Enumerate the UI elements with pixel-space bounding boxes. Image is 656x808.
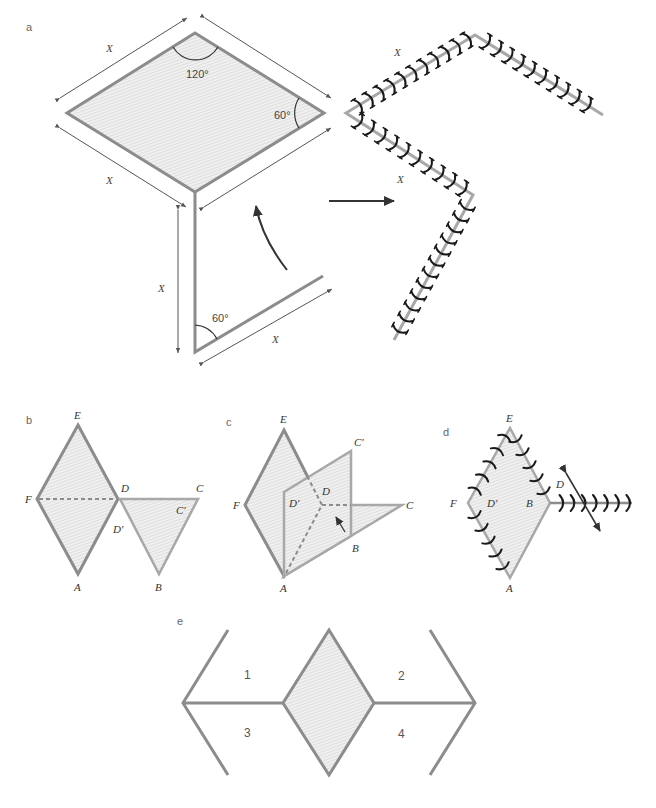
panel-d: d E D F D' B A [443,412,632,594]
panel-c: c E C' D F D' C B A [226,413,414,594]
vertex-f-c: F [232,499,240,511]
stitch-tick [441,165,445,168]
angle-label-60-strip: 60° [212,312,229,324]
stitch-tick [395,135,399,138]
stitch-tick [406,143,410,146]
dim-label-bottom-left: X [105,174,114,186]
stitch-tick [555,75,559,78]
stitch-tick [381,99,385,102]
stitch-tick [473,207,475,211]
panel-e-label: e [177,615,183,627]
stitch-tick [510,47,514,50]
vertex-cprime-c: C' [354,436,364,448]
vertex-e-b: E [73,409,81,421]
stitch-tick [447,59,451,62]
panel-a-label: a [26,21,33,33]
triangle-dcb [120,499,198,574]
stitch-tick [430,158,434,161]
stitch-tick [589,96,593,99]
vertex-a-d: A [505,582,513,594]
stitch-tick [464,180,468,183]
stitch-tick [403,86,407,89]
panel-b-label: b [26,414,32,426]
stitch-tick [566,82,570,85]
stitch-marks [351,32,593,334]
dim-label-stitch-bottom: X [396,173,405,185]
vertex-b-b: B [155,581,162,593]
dim-label-vertical: X [157,282,166,294]
vertex-dprime-d: D' [486,497,498,509]
stitched-strip: X X [346,32,603,340]
region-label-1: 1 [244,668,251,682]
stitch-tick [453,173,457,176]
stitch-tick [455,241,457,245]
stitch-tick [424,297,426,301]
stitch-tick [521,54,525,57]
dim-arrow-diagonal [204,289,332,362]
stitch-tick [392,92,396,95]
stitch-tick [469,46,473,49]
panel-c-label: c [226,416,232,428]
region-label-4: 4 [398,727,405,741]
region-label-2: 2 [398,669,405,683]
rhombus-folding-figure: a 120° 60° X X 60° X X X X [0,0,656,808]
vertex-d-b: D [120,482,129,494]
stitch-tick [467,218,469,222]
vertex-dprime-b: D' [112,523,124,535]
region-label-3: 3 [244,726,251,740]
rhombus-d [468,428,550,578]
vertex-e-d: E [505,412,513,424]
stitch-tick [430,285,432,289]
vertex-d-c: D [321,485,330,497]
stitch-tick [442,263,444,267]
stitch-tick [499,40,503,43]
vertex-f-b: F [24,493,32,505]
panel-b: b E F D C C' D' A B [24,409,204,593]
vertex-cprime-b: C' [176,504,186,516]
stitch-tick [458,52,462,55]
panel-d-label: d [443,426,449,438]
vertex-a-c: A [279,582,287,594]
vertex-a-b: A [73,581,81,593]
vertex-c-c: C [406,499,414,511]
vertex-c-b: C [196,482,204,494]
curved-fold-arrow [256,206,287,270]
stitch-tick [372,120,376,123]
angle-label-60: 60° [274,109,291,121]
stitch-tick [461,230,463,234]
stitch-tick [370,106,374,109]
stitch-tick [383,128,387,131]
stitch-tick [414,79,418,82]
vertex-dprime-c: D' [288,497,300,509]
stitch-tick [412,319,414,323]
panel-a: a 120° 60° X X 60° X X X X [26,18,603,362]
stitch-tick [406,330,408,334]
vertex-d-d: D [555,478,564,490]
stitch-tick [488,33,492,36]
dim-label-stitch-top: X [393,46,402,58]
stitch-tick [436,274,438,278]
stitch-tick [448,252,450,256]
vertex-b-c: B [352,542,359,554]
stitch-tick [418,308,420,312]
stitch-tick [544,68,548,71]
stitch-tick [418,150,422,153]
rhombus-e [283,630,374,775]
dim-label-diagonal: X [271,333,280,345]
dim-label-top-left: X [105,42,114,54]
vertex-f-d: F [449,497,457,509]
stitch-tick [577,89,581,92]
panel-e: e 1 2 3 4 [177,615,475,775]
vertex-e-c: E [279,413,287,425]
vertex-b-d: B [526,497,533,509]
stitch-tick [436,66,440,69]
angle-arc-60-strip [195,325,217,339]
angle-label-120: 120° [186,68,209,80]
stitch-tick [425,72,429,75]
stitch-tick [533,61,537,64]
